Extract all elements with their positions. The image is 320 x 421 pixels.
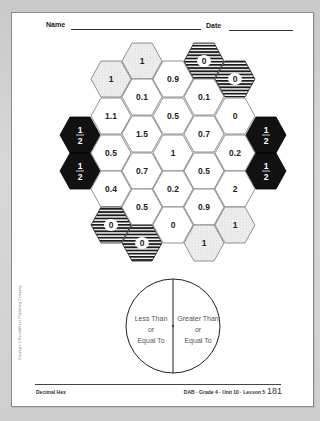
less-than-line1: Less Than bbox=[129, 313, 173, 324]
greater-than-line3: Equal To bbox=[174, 335, 222, 346]
course-label: DAB · Grade 4 · Unit 10 · Lesson 5 bbox=[184, 389, 265, 395]
page-number: 181 bbox=[267, 386, 282, 396]
hex-value: 0.1 bbox=[136, 92, 148, 102]
fraction-numerator: 1 bbox=[264, 161, 269, 171]
hex-value: 1 bbox=[109, 74, 114, 84]
worksheet-title: Decimal Hex bbox=[36, 389, 66, 395]
hex-value: 1 bbox=[233, 220, 238, 230]
hex-board: 121211.10.50.4010.11.50.70.500.90.510.20… bbox=[0, 0, 318, 421]
less-than-line3: Equal To bbox=[129, 335, 173, 346]
hex-value: 1 bbox=[140, 56, 145, 66]
hex-value: 0.4 bbox=[105, 184, 117, 194]
hex-value: 0.7 bbox=[136, 166, 148, 176]
hex-value: 0 bbox=[171, 220, 176, 230]
fraction-denominator: 2 bbox=[264, 172, 269, 182]
hex-value: 1 bbox=[202, 238, 207, 248]
hex-value: 0.1 bbox=[198, 92, 210, 102]
greater-than-line1: Greater Than bbox=[174, 313, 222, 324]
hex-value: 0.2 bbox=[229, 148, 241, 158]
hex-value: 0 bbox=[233, 74, 238, 84]
hex-value: 0 bbox=[109, 220, 114, 230]
fraction-numerator: 1 bbox=[264, 125, 269, 135]
fraction-denominator: 2 bbox=[78, 136, 83, 146]
less-than-region[interactable]: Less Than or Equal To bbox=[129, 313, 173, 346]
footer-course-info: DAB · Grade 4 · Unit 10 · Lesson 5181 bbox=[184, 386, 282, 396]
hex-value: 2 bbox=[233, 184, 238, 194]
less-than-line2: or bbox=[129, 324, 173, 335]
hex-value: 0.9 bbox=[198, 202, 210, 212]
hex-value: 1.1 bbox=[105, 111, 117, 121]
hex-value: 0.7 bbox=[198, 129, 210, 139]
hex-value: 0.5 bbox=[198, 166, 210, 176]
hex-value: 0 bbox=[233, 111, 238, 121]
hex-value: 0.5 bbox=[105, 148, 117, 158]
hex-value: 0.9 bbox=[167, 74, 179, 84]
greater-than-region[interactable]: Greater Than or Equal To bbox=[174, 313, 222, 346]
hex-value: 1.5 bbox=[136, 129, 148, 139]
hex-value: 0.5 bbox=[167, 111, 179, 121]
fraction-numerator: 1 bbox=[78, 161, 83, 171]
hex-value: 0.5 bbox=[136, 202, 148, 212]
fraction-numerator: 1 bbox=[78, 125, 83, 135]
hex-value: 0 bbox=[202, 56, 207, 66]
fraction-denominator: 2 bbox=[78, 172, 83, 182]
footer-divider bbox=[35, 384, 281, 385]
fraction-denominator: 2 bbox=[264, 136, 269, 146]
greater-than-line2: or bbox=[174, 324, 222, 335]
copyright-notice: Copyright © Kendall/Hunt Publishing Comp… bbox=[18, 285, 22, 360]
hex-value: 1 bbox=[171, 148, 176, 158]
hex-value: 0.2 bbox=[167, 184, 179, 194]
hex-value: 0 bbox=[140, 238, 145, 248]
